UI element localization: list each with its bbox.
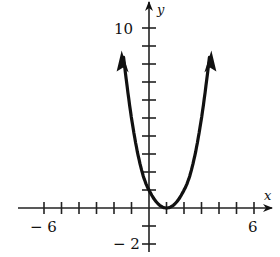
parabola-graph: − 6 6 10 − 2 x y (0, 0, 280, 257)
y-max-label: 10 (114, 20, 133, 38)
x-min-label: − 6 (30, 218, 57, 236)
y-min-label: − 2 (113, 235, 140, 253)
x-axis-label: x (264, 188, 272, 203)
y-axis-label: y (156, 2, 165, 17)
x-max-label: 6 (248, 218, 258, 236)
parabola-curve (124, 57, 210, 208)
curve-arrow-left-icon (117, 51, 129, 73)
curve-arrow-right-icon (204, 51, 216, 73)
